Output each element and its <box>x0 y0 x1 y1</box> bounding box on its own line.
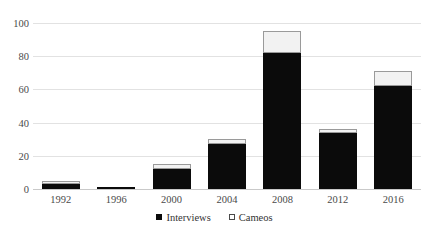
bar-segment-interviews <box>42 184 80 189</box>
chart-figure: 216 Figure 4. Candidate appearances 0204… <box>0 0 429 235</box>
bar-segment-cameos <box>263 31 301 53</box>
y-axis-tick-label: 60 <box>2 84 29 95</box>
x-axis-tick-label: 1996 <box>86 194 146 206</box>
x-axis-line <box>33 189 421 190</box>
x-axis-tick-label: 1992 <box>31 194 91 206</box>
bar-segment-interviews <box>208 144 246 189</box>
cropped-header-text: 216 Figure 4. Candidate appearances <box>0 0 429 9</box>
bar-segment-cameos <box>153 164 191 169</box>
bar-segment-interviews <box>263 53 301 189</box>
bar-group <box>42 23 80 189</box>
chart-legend: InterviewsCameos <box>0 212 429 224</box>
page-number-ghost: 216 <box>4 0 15 4</box>
bar-group <box>263 23 301 189</box>
plot-area: 020406080100 199219962000200420082012201… <box>33 23 421 189</box>
bar-group <box>153 23 191 189</box>
legend-item: Cameos <box>229 212 273 224</box>
bar-group <box>97 23 135 189</box>
y-axis-tick-label: 80 <box>2 51 29 62</box>
legend-label: Cameos <box>239 212 273 224</box>
filled-square-icon <box>156 214 162 220</box>
bar-group <box>374 23 412 189</box>
bar-group <box>319 23 357 189</box>
bar-series-layer <box>33 23 421 189</box>
x-axis-tick-label: 2016 <box>363 194 423 206</box>
y-axis-tick-label: 0 <box>2 184 29 195</box>
bar-group <box>208 23 246 189</box>
bar-segment-interviews <box>97 187 135 189</box>
x-axis-tick-label: 2000 <box>142 194 202 206</box>
bar-segment-interviews <box>153 169 191 189</box>
x-axis-tick-label: 2004 <box>197 194 257 206</box>
bar-segment-interviews <box>374 86 412 189</box>
x-axis-tick-label: 2012 <box>308 194 368 206</box>
bar-segment-cameos <box>374 71 412 86</box>
y-axis-tick-label: 100 <box>2 18 29 29</box>
bar-segment-cameos <box>42 181 80 184</box>
legend-item: Interviews <box>156 212 210 224</box>
y-axis-tick-label: 40 <box>2 118 29 129</box>
figure-caption-ghost: Figure 4. Candidate appearances <box>168 0 259 4</box>
legend-label: Interviews <box>166 212 210 224</box>
hollow-square-icon <box>229 214 235 220</box>
bar-segment-interviews <box>319 133 357 189</box>
x-axis-tick-label: 2008 <box>252 194 312 206</box>
bar-segment-cameos <box>208 139 246 144</box>
y-axis-tick-label: 20 <box>2 151 29 162</box>
bar-segment-cameos <box>319 129 357 132</box>
